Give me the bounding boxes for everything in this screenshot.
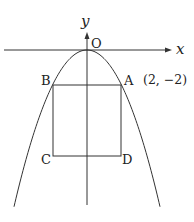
- diagram-canvas: y O x B A (2, −2) C D: [0, 0, 194, 222]
- x-axis-arrow-icon: [165, 48, 172, 53]
- point-a-coordinates: (2, −2): [143, 74, 187, 87]
- point-b-label: B: [41, 74, 51, 87]
- point-a-label: A: [124, 74, 133, 87]
- y-axis-arrow-icon: [85, 32, 90, 39]
- x-axis-label: x: [176, 42, 184, 57]
- point-c-label: C: [41, 153, 51, 166]
- point-d-label: D: [122, 153, 132, 166]
- origin-label: O: [91, 37, 102, 50]
- diagram-svg: [0, 0, 194, 222]
- y-axis-label: y: [81, 14, 89, 29]
